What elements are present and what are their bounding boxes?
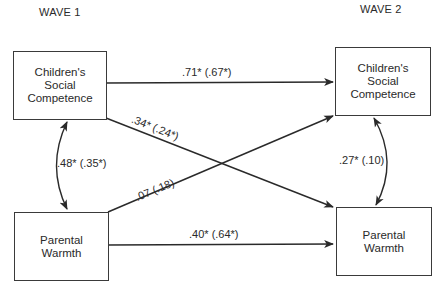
node-label-line: Social bbox=[350, 75, 415, 88]
edge-label-w1-correlation: .48* (.35*) bbox=[57, 157, 107, 169]
node-label-line: Children's bbox=[27, 66, 92, 79]
edge-label-warmth-stability: .40* (.64*) bbox=[189, 228, 239, 240]
node-label-line: Children's bbox=[350, 62, 415, 75]
node-label-line: Warmth bbox=[363, 242, 406, 255]
node-w2-social-competence: Children's Social Competence bbox=[335, 47, 431, 116]
node-label-line: Parental bbox=[40, 234, 83, 247]
node-w1-parental-warmth: Parental Warmth bbox=[14, 212, 109, 281]
node-label-line: Parental bbox=[363, 229, 406, 242]
edge-label-w2-correlation: .27* (.10) bbox=[339, 154, 384, 166]
arrow-warmth-stability bbox=[108, 244, 333, 245]
node-label-line: Competence bbox=[350, 88, 415, 101]
node-label-line: Social bbox=[27, 79, 92, 92]
node-label-line: Warmth bbox=[40, 247, 83, 260]
node-w1-social-competence: Children's Social Competence bbox=[13, 51, 107, 120]
edge-label-social-stability: .71* (.67*) bbox=[182, 66, 232, 78]
arrow-social-stability bbox=[106, 82, 333, 83]
node-label-line: Competence bbox=[27, 92, 92, 105]
node-w2-parental-warmth: Parental Warmth bbox=[336, 207, 432, 276]
